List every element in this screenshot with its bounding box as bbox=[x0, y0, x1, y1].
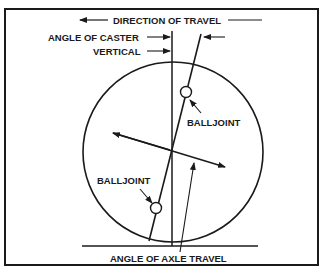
upper-balljoint-label: BALLJOINT bbox=[187, 117, 241, 128]
direction-of-travel-label: DIRECTION OF TRAVEL bbox=[113, 15, 221, 26]
angle-of-axle-travel-label: ANGLE OF AXLE TRAVEL bbox=[110, 253, 227, 264]
lower-balljoint-icon bbox=[151, 203, 162, 214]
angle-of-caster-label: ANGLE OF CASTER bbox=[48, 32, 139, 43]
vertical-label: VERTICAL bbox=[93, 46, 141, 57]
wheel-circle bbox=[83, 62, 263, 242]
caster-angle-diagram: DIRECTION OF TRAVEL ANGLE OF CASTER VERT… bbox=[0, 0, 323, 273]
lower-balljoint-label: BALLJOINT bbox=[97, 175, 151, 186]
upper-balljoint-icon bbox=[181, 87, 192, 98]
